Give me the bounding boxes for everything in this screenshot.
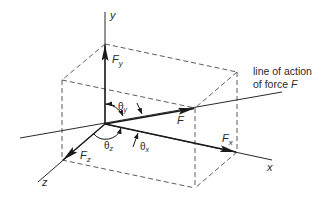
f-label: F — [177, 114, 185, 126]
theta-y-tick — [137, 103, 142, 114]
x-axis-label: x — [266, 161, 273, 173]
theta-x-label: θx — [140, 141, 150, 153]
force-vectors — [63, 45, 236, 160]
theta-z-arc — [93, 128, 121, 139]
theta-y-label: θy — [118, 101, 128, 114]
z-axis-label: z — [41, 176, 48, 188]
theta-z-label: θz — [104, 140, 114, 152]
y-axis-label: y — [109, 9, 117, 21]
fz-label: Fz — [80, 149, 91, 164]
fy-label: Fy — [112, 53, 124, 68]
fx-label: Fx — [222, 132, 234, 147]
theta-x-tick — [133, 133, 138, 147]
line-of-action-label-2: of force F — [253, 78, 298, 90]
force-components-diagram: y x z Fy Fx Fz F θy θz θx line of action… — [0, 0, 334, 198]
line-of-action-label-1: line of action — [253, 65, 312, 77]
fx-arrow — [105, 124, 236, 152]
